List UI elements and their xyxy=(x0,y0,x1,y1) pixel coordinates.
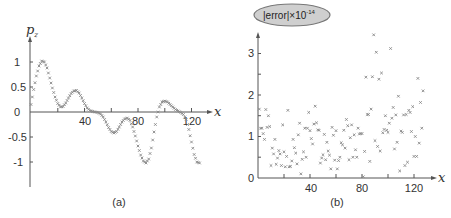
data-point-marker xyxy=(155,116,158,119)
data-point-marker xyxy=(272,153,275,156)
data-point-marker xyxy=(292,138,295,141)
data-point-marker xyxy=(102,116,105,119)
data-point-marker xyxy=(278,149,281,152)
data-point-marker xyxy=(281,124,284,127)
y-axis-label-a: pz xyxy=(26,22,38,39)
data-point-marker xyxy=(395,114,398,117)
data-point-marker xyxy=(133,130,136,133)
data-point-marker xyxy=(83,102,86,105)
data-point-marker xyxy=(78,92,81,95)
ytick-label: 0.5 xyxy=(11,81,26,93)
data-point-marker xyxy=(137,145,140,148)
ytick-label: 1 xyxy=(248,130,254,142)
data-point-marker xyxy=(332,134,335,137)
data-point-marker xyxy=(328,154,331,157)
ytick-label: 0 xyxy=(14,106,20,118)
data-point-marker xyxy=(326,141,329,144)
data-point-marker xyxy=(374,139,377,142)
ytick-label: -0.5 xyxy=(8,131,27,143)
data-point-marker xyxy=(421,127,424,130)
data-point-marker xyxy=(330,168,333,171)
data-point-marker xyxy=(105,121,108,124)
data-point-marker xyxy=(267,114,270,117)
data-point-marker xyxy=(50,82,53,85)
y-ticks-a: 1 0.5 0 -0.5 -1 xyxy=(8,56,33,168)
data-point-marker xyxy=(266,126,269,129)
data-point-marker xyxy=(344,147,347,150)
data-point-marker xyxy=(150,147,153,150)
x-ticks-b: 40 80 120 xyxy=(284,174,423,194)
data-point-marker xyxy=(397,95,400,98)
data-point-marker xyxy=(337,159,340,162)
x-axis-label-b: x xyxy=(438,170,446,185)
data-point-marker xyxy=(413,155,416,158)
data-point-marker xyxy=(302,151,305,154)
data-point-marker xyxy=(313,123,316,126)
data-point-marker xyxy=(141,157,144,160)
panel-b-chart: |error|×10-14 x 0 1 2 3 4 xyxy=(248,4,446,208)
data-point-marker xyxy=(343,129,346,132)
panel-a-chart: pz x 1 0.5 0 -0.5 -1 40 80 120 xyxy=(8,22,222,208)
data-point-marker xyxy=(46,67,49,70)
data-point-marker xyxy=(31,96,34,99)
data-point-marker xyxy=(280,164,283,167)
data-point-marker xyxy=(190,141,193,144)
data-point-marker xyxy=(283,151,286,154)
data-point-marker xyxy=(331,126,334,129)
data-point-marker xyxy=(270,164,273,167)
data-point-marker xyxy=(310,137,313,140)
data-point-marker xyxy=(52,91,55,94)
x-ticks-a: 40 80 120 xyxy=(58,108,201,127)
data-point-marker xyxy=(383,128,386,131)
data-point-marker xyxy=(411,105,414,108)
xtick-label: 80 xyxy=(132,115,144,127)
data-point-marker xyxy=(322,153,325,156)
data-point-marker xyxy=(406,161,409,164)
data-point-marker xyxy=(398,170,401,173)
data-point-marker xyxy=(405,113,408,116)
data-point-marker xyxy=(365,76,368,79)
data-point-marker xyxy=(194,157,197,160)
data-point-marker xyxy=(274,138,277,141)
data-point-marker xyxy=(323,133,326,136)
data-point-marker xyxy=(306,127,309,130)
figure: pz x 1 0.5 0 -0.5 -1 40 80 120 xyxy=(0,0,451,218)
data-point-marker xyxy=(106,123,109,126)
data-point-marker xyxy=(301,158,304,161)
data-point-marker xyxy=(55,99,58,102)
data-point-marker xyxy=(346,124,349,127)
data-point-marker xyxy=(129,119,132,122)
data-point-marker xyxy=(324,158,327,161)
data-point-marker xyxy=(309,129,312,132)
data-point-marker xyxy=(371,75,374,78)
data-point-marker xyxy=(79,94,82,97)
data-point-marker xyxy=(85,104,88,107)
data-point-marker xyxy=(139,154,142,157)
xtick-label: 40 xyxy=(305,182,317,194)
data-point-marker xyxy=(414,135,417,138)
y-axis-arrow-icon xyxy=(256,32,260,38)
x-axis-label-a: x xyxy=(214,104,222,119)
ytick-label: 1 xyxy=(14,56,20,68)
data-point-marker xyxy=(296,163,299,166)
data-point-marker xyxy=(34,81,37,84)
data-point-marker xyxy=(384,114,387,117)
data-point-marker xyxy=(32,88,35,91)
data-point-marker xyxy=(298,122,301,125)
data-point-marker xyxy=(357,127,360,130)
data-point-marker xyxy=(271,147,274,150)
data-point-marker xyxy=(159,103,162,106)
data-point-marker xyxy=(356,156,359,159)
data-point-marker xyxy=(388,122,391,125)
data-point-marker xyxy=(307,111,310,114)
data-point-marker xyxy=(345,118,348,121)
data-point-marker xyxy=(263,138,266,141)
data-point-marker xyxy=(352,156,355,159)
data-point-marker xyxy=(275,163,278,166)
caption-a: (a) xyxy=(112,196,125,208)
data-point-marker xyxy=(372,34,375,37)
data-point-marker xyxy=(297,134,300,137)
data-point-marker xyxy=(154,123,157,126)
data-point-marker xyxy=(305,156,308,159)
data-point-marker xyxy=(419,101,422,104)
